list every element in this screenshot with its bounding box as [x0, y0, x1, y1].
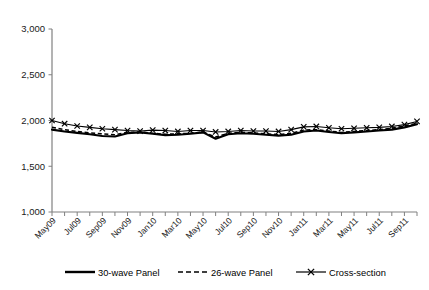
y-tick-label: 2,000: [21, 115, 45, 126]
x-tick-label: Jan10: [135, 215, 159, 239]
x-tick-label: Sep09: [84, 215, 109, 240]
chart-legend: 30-wave Panel26-wave PanelCross-section: [65, 268, 386, 278]
legend-label: 26-wave Panel: [211, 268, 273, 278]
x-tick-label: May09: [33, 215, 58, 240]
x-axis: May09Jul09Sep09Nov09Jan10Mar10May10Jul10…: [33, 212, 417, 241]
x-tick-label: Sep11: [386, 215, 410, 239]
y-tick-label: 3,000: [21, 23, 45, 34]
x-tick-label: Jan11: [286, 215, 309, 238]
y-axis: 1,0001,5002,0002,5003,000: [21, 23, 52, 217]
x-tick-label: Mar11: [311, 215, 335, 239]
x-tick-label: May10: [184, 215, 209, 240]
legend-label: 30-wave Panel: [98, 268, 160, 278]
legend-item-1: 30-wave Panel: [65, 268, 160, 278]
series-line-2: [52, 123, 417, 137]
legend-label: Cross-section: [329, 268, 386, 278]
line-chart: 1,0001,5002,0002,5003,000 May09Jul09Sep0…: [0, 0, 429, 290]
legend-item-3: Cross-section: [296, 268, 386, 278]
x-tick-label: Mar10: [159, 215, 183, 239]
y-tick-label: 2,500: [21, 69, 45, 80]
x-tick-label: Jul10: [213, 215, 235, 237]
x-tick-label: Jul09: [61, 215, 83, 237]
x-tick-label: May11: [335, 215, 360, 240]
plot-area: [49, 118, 419, 139]
x-tick-label: Jul11: [364, 215, 385, 236]
x-tick-label: Nov10: [260, 215, 285, 240]
y-tick-label: 1,000: [21, 206, 45, 217]
legend-item-2: 26-wave Panel: [178, 268, 273, 278]
x-tick-label: Nov09: [109, 215, 134, 240]
x-tick-label: Sep10: [235, 215, 260, 240]
y-tick-label: 1,500: [21, 161, 45, 172]
chart-container: 1,0001,5002,0002,5003,000 May09Jul09Sep0…: [0, 0, 429, 290]
